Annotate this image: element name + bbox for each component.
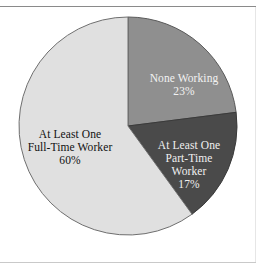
pie-label-part-time-line3: Worker <box>172 165 207 177</box>
pie-label-full-time-line1: At Least One <box>39 128 102 140</box>
pie-slices <box>19 17 237 235</box>
pie-label-full-time-line2: Full-Time Worker <box>28 141 113 153</box>
pie-label-part-time-percent: 17% <box>146 178 232 191</box>
pie-label-full-time: At Least One Full-Time Worker 60% <box>14 128 126 167</box>
pie-label-part-time: At Least One Part-Time Worker 17% <box>146 139 232 191</box>
pie-label-part-time-line2: Part-Time <box>165 152 212 164</box>
pie-label-part-time-line1: At Least One <box>158 139 221 151</box>
pie-label-none-working: None Working 23% <box>138 72 230 98</box>
pie-label-none-working-percent: 23% <box>138 85 230 98</box>
pie-label-full-time-percent: 60% <box>14 154 126 167</box>
pie-label-none-working-text: None Working <box>150 72 219 84</box>
pie-chart-figure: None Working 23% At Least One Part-Time … <box>0 0 256 267</box>
